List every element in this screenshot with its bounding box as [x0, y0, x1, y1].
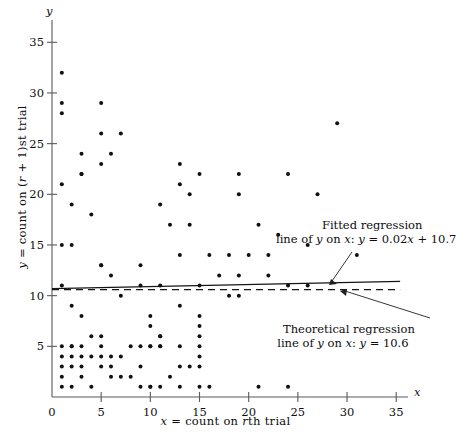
data-point: [99, 365, 103, 369]
data-point: [198, 385, 202, 389]
data-point: [198, 365, 202, 369]
data-point: [198, 354, 202, 358]
data-point: [80, 365, 84, 369]
data-point: [227, 253, 231, 257]
data-point: [168, 375, 172, 379]
data-point: [70, 344, 74, 348]
data-point: [70, 202, 74, 206]
theoretical-annotation-line1: Theoretical regression: [283, 322, 415, 336]
data-point: [119, 294, 123, 298]
y-axis-symbol: y: [46, 4, 53, 18]
data-point: [188, 223, 192, 227]
data-point: [198, 284, 202, 288]
y-tick-label-5: 5: [14, 339, 44, 353]
data-point: [109, 152, 113, 156]
data-point: [80, 152, 84, 156]
data-point: [286, 284, 290, 288]
data-point: [227, 294, 231, 298]
data-point: [70, 304, 74, 308]
data-point: [60, 182, 64, 186]
data-point: [158, 202, 162, 206]
theoretical-regression-annotation: Theoretical regression line of y on x: y…: [283, 322, 415, 350]
theoretical-leader-line: [345, 291, 430, 318]
data-point: [60, 101, 64, 105]
data-point: [247, 253, 251, 257]
data-point: [266, 273, 270, 277]
data-point: [80, 375, 84, 379]
data-point: [178, 304, 182, 308]
data-point: [60, 111, 64, 115]
data-point: [139, 385, 143, 389]
data-point: [168, 223, 172, 227]
data-point: [70, 385, 74, 389]
data-point: [198, 172, 202, 176]
data-point: [158, 385, 162, 389]
data-point: [89, 334, 93, 338]
data-point: [178, 253, 182, 257]
x-axis-symbol: x: [414, 385, 421, 399]
data-point: [217, 273, 221, 277]
y-tick-label-35: 35: [14, 35, 44, 49]
data-point: [119, 354, 123, 358]
data-point: [60, 284, 64, 288]
fitted-annotation-line2: line of y on x: y = 0.02x + 10.7: [276, 232, 456, 246]
regression-lines: [52, 281, 400, 289]
data-point: [148, 324, 152, 328]
data-point: [306, 284, 310, 288]
data-point: [198, 314, 202, 318]
fitted-regression-line: [52, 281, 400, 288]
data-point: [99, 101, 103, 105]
theoretical-annotation-line2: line of y on x: y = 10.6: [271, 336, 415, 350]
data-point: [335, 121, 339, 125]
data-point: [99, 344, 103, 348]
data-point: [80, 172, 84, 176]
data-point: [70, 365, 74, 369]
data-point: [109, 375, 113, 379]
data-point: [237, 172, 241, 176]
data-point: [129, 344, 133, 348]
fitted-leader-line: [332, 252, 352, 281]
data-point: [178, 365, 182, 369]
data-point: [355, 253, 359, 257]
data-point: [207, 385, 211, 389]
data-point: [60, 354, 64, 358]
data-point: [139, 263, 143, 267]
data-point: [99, 354, 103, 358]
data-point: [198, 324, 202, 328]
data-point: [99, 162, 103, 166]
data-point: [119, 132, 123, 136]
data-point: [139, 344, 143, 348]
data-point: [70, 243, 74, 247]
data-point: [139, 284, 143, 288]
data-point: [80, 354, 84, 358]
data-point: [148, 314, 152, 318]
data-point: [286, 172, 290, 176]
data-point: [109, 354, 113, 358]
data-point: [158, 344, 162, 348]
data-point: [188, 365, 192, 369]
data-point: [129, 375, 133, 379]
data-point: [60, 365, 64, 369]
data-point: [80, 314, 84, 318]
data-point: [257, 385, 261, 389]
data-point: [178, 344, 182, 348]
data-point: [178, 182, 182, 186]
data-point: [109, 273, 113, 277]
data-point: [158, 284, 162, 288]
data-point: [148, 385, 152, 389]
data-point: [99, 334, 103, 338]
data-point: [119, 375, 123, 379]
data-point: [158, 334, 162, 338]
annotation-leader-lines: [329, 252, 430, 318]
fitted-regression-annotation: Fitted regression line of y on x: y = 0.…: [288, 218, 456, 246]
data-point: [89, 354, 93, 358]
data-point: [237, 294, 241, 298]
data-point: [139, 365, 143, 369]
data-point: [109, 365, 113, 369]
data-point: [266, 253, 270, 257]
data-point: [178, 162, 182, 166]
data-point: [99, 263, 103, 267]
data-point: [148, 344, 152, 348]
data-point: [60, 375, 64, 379]
